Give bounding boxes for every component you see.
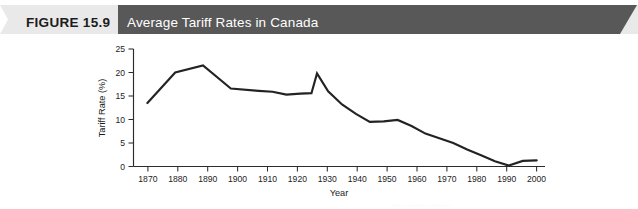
x-tick-label: 1950 [378,174,397,184]
line-chart: 25 20 15 10 5 0 Tariff Rate (%) [0,36,638,209]
y-axis-tick-labels: 25 20 15 10 5 0 [115,44,125,172]
chart-container: 25 20 15 10 5 0 Tariff Rate (%) [0,36,638,209]
x-tick-label: 1880 [168,174,187,184]
y-tick-label: 20 [115,68,125,78]
x-tick-label: 1980 [467,174,486,184]
x-tick-label: 1870 [138,174,157,184]
figure-number-label: FIGURE 15.9 [26,15,110,30]
x-tick-label: 1890 [198,174,217,184]
x-tick-label: 1930 [318,174,337,184]
figure-title-label: Average Tariff Rates in Canada [127,15,318,30]
x-tick-label: 1940 [348,174,367,184]
y-tick-label: 0 [120,162,125,172]
x-axis-ticks [148,167,537,172]
x-axis-title: Year [330,188,349,198]
y-tick-label: 15 [115,91,125,101]
x-tick-label: 1970 [437,174,456,184]
x-tick-label: 1920 [288,174,307,184]
x-tick-label: 2000 [527,174,546,184]
y-axis-ticks [129,49,134,167]
source-note-fragment: · · · · · · · · · · · · · · · · · · · · [392,202,638,209]
x-axis-tick-labels: 1870 1880 1890 1900 1910 1920 1930 1940 … [138,174,546,184]
y-tick-label: 25 [115,44,125,54]
data-series-line [147,65,536,165]
x-tick-label: 1910 [258,174,277,184]
x-tick-label: 1900 [228,174,247,184]
y-tick-label: 10 [115,115,125,125]
x-tick-label: 1990 [497,174,516,184]
figure-banner: FIGURE 15.9 Average Tariff Rates in Cana… [0,5,638,34]
y-axis-title: Tariff Rate (%) [97,79,107,138]
x-tick-label: 1960 [407,174,426,184]
y-tick-label: 5 [120,138,125,148]
